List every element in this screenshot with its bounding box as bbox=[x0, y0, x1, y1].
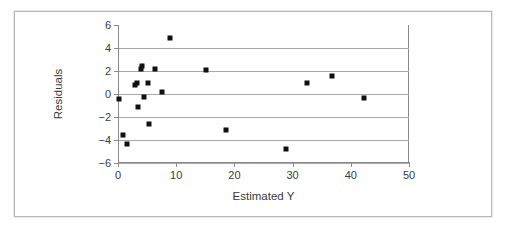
y-tick-label: −2 bbox=[98, 112, 111, 123]
data-point bbox=[135, 104, 140, 109]
y-tick-label: 6 bbox=[105, 20, 111, 31]
y-tick bbox=[114, 140, 119, 141]
x-tick bbox=[409, 162, 410, 167]
gridline bbox=[118, 48, 409, 49]
y-tick-label: −6 bbox=[98, 158, 111, 169]
y-tick bbox=[114, 25, 119, 26]
y-tick bbox=[114, 71, 119, 72]
x-tick bbox=[118, 162, 119, 167]
y-tick bbox=[114, 48, 119, 49]
x-tick bbox=[234, 162, 235, 167]
x-tick-label: 0 bbox=[115, 170, 121, 181]
y-tick bbox=[114, 117, 119, 118]
x-tick bbox=[176, 162, 177, 167]
data-point bbox=[361, 96, 366, 101]
y-tick-label: 0 bbox=[105, 89, 111, 100]
y-tick-label: 4 bbox=[105, 43, 111, 54]
y-tick-label: 2 bbox=[105, 66, 111, 77]
x-tick-label: 50 bbox=[403, 170, 415, 181]
scatter-plot-area: −6−4−20246 01020304050 bbox=[118, 25, 409, 163]
data-point bbox=[204, 67, 209, 72]
y-tick-label: −4 bbox=[98, 135, 111, 146]
data-point bbox=[224, 127, 229, 132]
x-tick-label: 10 bbox=[170, 170, 182, 181]
data-point bbox=[139, 63, 144, 68]
x-tick-label: 40 bbox=[345, 170, 357, 181]
x-tick bbox=[293, 162, 294, 167]
data-point bbox=[145, 81, 150, 86]
data-point bbox=[117, 96, 122, 101]
x-axis-title: Estimated Y bbox=[118, 190, 409, 202]
data-point bbox=[146, 121, 151, 126]
data-point bbox=[142, 94, 147, 99]
data-point bbox=[284, 146, 289, 151]
gridline bbox=[118, 71, 409, 72]
x-tick-label: 20 bbox=[228, 170, 240, 181]
y-axis-title: Residuals bbox=[51, 25, 65, 163]
y-tick bbox=[114, 94, 119, 95]
x-tick bbox=[351, 162, 352, 167]
gridline bbox=[118, 117, 409, 118]
x-tick-label: 30 bbox=[286, 170, 298, 181]
data-point bbox=[168, 35, 173, 40]
data-point bbox=[304, 81, 309, 86]
data-point bbox=[329, 73, 334, 78]
figure-frame: Residuals −6−4−20246 01020304050 Estimat… bbox=[14, 11, 492, 217]
gridline bbox=[118, 163, 409, 164]
x-axis-title-label: Estimated Y bbox=[233, 190, 295, 202]
data-point bbox=[134, 81, 139, 86]
data-point bbox=[121, 133, 126, 138]
y-axis-title-label: Residuals bbox=[52, 69, 64, 120]
data-point bbox=[125, 142, 130, 147]
gridline bbox=[118, 140, 409, 141]
data-point bbox=[159, 90, 164, 95]
data-point bbox=[152, 66, 157, 71]
